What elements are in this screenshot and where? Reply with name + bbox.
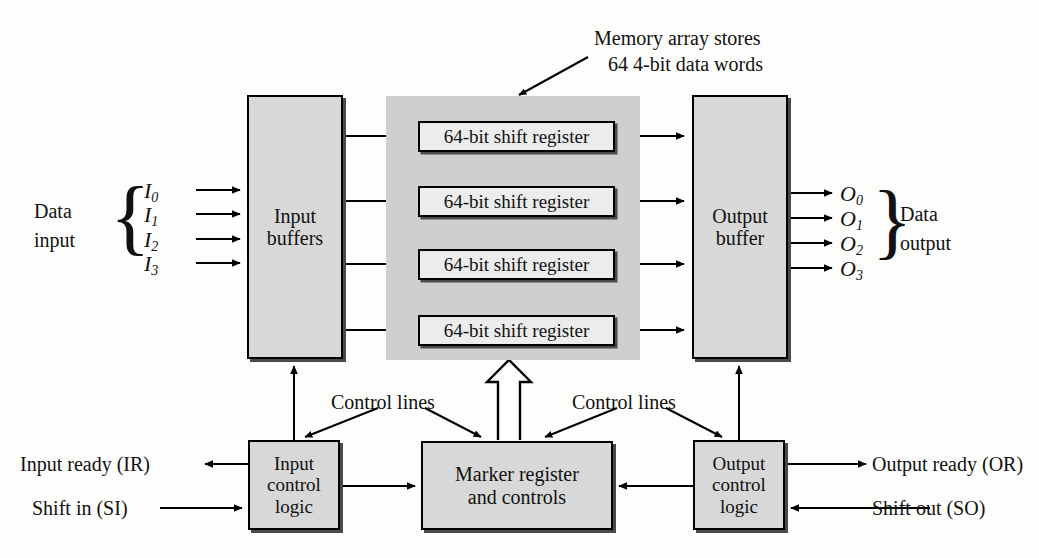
input-control-line2: control <box>267 474 321 495</box>
annotation-line1: Memory array stores <box>594 26 763 52</box>
marker-register-line1: Marker register <box>455 463 579 485</box>
data-input-label: Data input <box>34 197 75 255</box>
signal-o3: O3 <box>840 256 863 284</box>
output-control-line1: Output <box>712 453 766 474</box>
output-control-line3: logic <box>712 496 766 517</box>
signal-o2: O2 <box>840 231 863 259</box>
shift-register-2[interactable]: 64-bit shift register <box>418 186 615 217</box>
control-lines-label-right: Control lines <box>572 391 676 414</box>
output-buffer-line2: buffer <box>712 227 768 249</box>
control-lines-label-left: Control lines <box>331 391 435 414</box>
block-input-control-logic[interactable]: Input control logic <box>248 440 340 530</box>
data-input-line1: Data <box>34 197 75 226</box>
input-buffers-line1: Input <box>267 205 323 227</box>
block-output-control-logic[interactable]: Output control logic <box>693 440 785 530</box>
signal-o1: O1 <box>840 206 863 234</box>
signal-i3: I3 <box>144 251 158 279</box>
data-output-label: Data output <box>900 200 951 258</box>
shift-register-1[interactable]: 64-bit shift register <box>418 121 615 152</box>
shift-register-4[interactable]: 64-bit shift register <box>418 315 615 346</box>
signal-o0-base: O <box>840 181 856 206</box>
input-buffers-line2: buffers <box>267 227 323 249</box>
shift-register-3[interactable]: 64-bit shift register <box>418 249 615 280</box>
data-output-line2: output <box>900 229 951 258</box>
signal-o0: O0 <box>840 181 863 209</box>
signal-o1-base: O <box>840 206 856 231</box>
diagram-canvas: Input buffers Output buffer 64-bit shift… <box>0 0 1039 558</box>
data-input-line2: input <box>34 226 75 255</box>
annotation-line2: 64 4-bit data words <box>594 52 763 78</box>
signal-i1: I1 <box>144 202 158 230</box>
memory-array-annotation: Memory array stores 64 4-bit data words <box>594 26 763 77</box>
input-control-line3: logic <box>267 496 321 517</box>
output-control-line2: control <box>712 474 766 495</box>
label-shift-out: Shift out (SO) <box>872 497 985 520</box>
signal-o3-sub: 3 <box>856 268 863 283</box>
label-output-ready: Output ready (OR) <box>872 453 1023 476</box>
marker-register-line2: and controls <box>455 486 579 508</box>
label-shift-in: Shift in (SI) <box>32 497 128 520</box>
block-input-buffers[interactable]: Input buffers <box>247 95 343 359</box>
label-input-ready: Input ready (IR) <box>20 453 150 476</box>
signal-i3-sub: 3 <box>151 263 158 278</box>
data-output-line1: Data <box>900 200 951 229</box>
signal-o2-base: O <box>840 231 856 256</box>
output-buffer-line1: Output <box>712 205 768 227</box>
block-output-buffer[interactable]: Output buffer <box>692 95 788 359</box>
block-marker-register[interactable]: Marker register and controls <box>421 441 613 530</box>
signal-o3-base: O <box>840 256 856 281</box>
input-control-line1: Input <box>267 453 321 474</box>
